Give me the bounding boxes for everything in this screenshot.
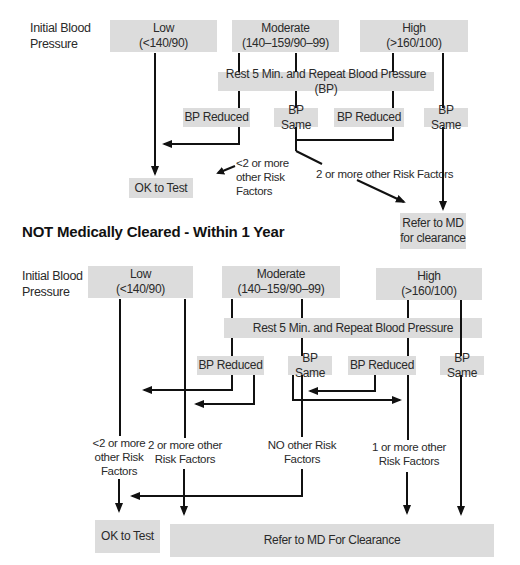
connector-lines (0, 0, 520, 565)
